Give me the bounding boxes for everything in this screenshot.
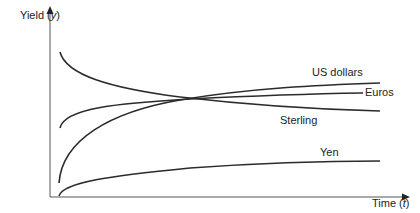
series-label-yen: Yen — [320, 147, 339, 158]
series-label-euros: Euros — [365, 87, 394, 98]
x-axis-label: Time (t) — [372, 198, 410, 209]
y-axis-label: Yield (y) — [20, 10, 60, 21]
series-label-sterling: Sterling — [280, 115, 317, 126]
series-label-us-dollars: US dollars — [312, 67, 363, 78]
series-line-sterling — [60, 52, 380, 111]
chart-plot-area — [0, 0, 420, 213]
series-line-yen — [59, 161, 380, 196]
yield-curve-chart: Yield (y) Time (t) US dollars Euros Ster… — [0, 0, 420, 213]
